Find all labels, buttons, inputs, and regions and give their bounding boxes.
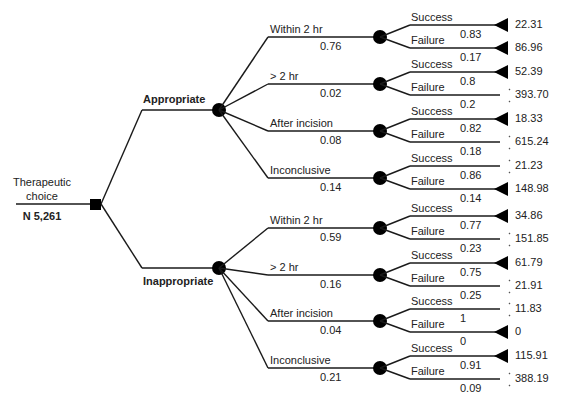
appropriate-timing-2-outcome-failure-value: 615.24 — [515, 135, 549, 147]
inappropriate-timing-2-diagonal — [219, 268, 268, 321]
appropriate-timing-0-prob: 0.76 — [320, 40, 341, 52]
inappropriate-timing-3-outcome-success-terminal-triangle-icon — [494, 349, 508, 363]
inappropriate-timing-3-diagonal — [219, 268, 268, 368]
inappropriate-timing-1-outcome-success-prob: 0.75 — [460, 266, 481, 278]
appropriate-timing-0-label: Within 2 hr — [270, 23, 323, 35]
appropriate-timing-2-outcome-success-prob: 0.82 — [460, 122, 481, 134]
branch-label-inappropriate: Inappropriate — [143, 275, 213, 287]
inappropriate-timing-2-outcome-failure-label: Failure — [411, 318, 445, 330]
appropriate-diagonal — [101, 110, 142, 204]
inappropriate-timing-1-outcome-success-value: 61.79 — [515, 256, 543, 268]
inappropriate-timing-3-outcome-failure-value: 388.19 — [515, 372, 549, 384]
appropriate-timing-0-outcome-success-value: 22.31 — [515, 18, 543, 30]
appropriate-timing-1-outcome-success-value: 52.39 — [515, 65, 543, 77]
appropriate-timing-1-outcome-success-terminal-triangle-icon — [494, 65, 508, 79]
inappropriate-timing-0-outcome-success-prob: 0.77 — [460, 219, 481, 231]
appropriate-timing-0-outcome-failure-terminal-triangle-icon — [494, 41, 508, 55]
inappropriate-timing-3-outcome-success-diagonal — [380, 356, 410, 368]
inappropriate-timing-0-outcome-failure-prob: 0.23 — [460, 242, 481, 254]
inappropriate-timing-3-outcome-failure-prob: 0.09 — [460, 382, 481, 394]
appropriate-timing-3-outcome-success-terminal-tick-icon — [509, 160, 510, 173]
root-label-line2: choice — [2, 190, 82, 202]
inappropriate-timing-2-outcome-failure-value: 0 — [515, 325, 521, 337]
appropriate-timing-2-prob: 0.08 — [320, 134, 341, 146]
appropriate-timing-3-outcome-success-diagonal — [380, 166, 410, 178]
appropriate-timing-1-outcome-success-diagonal — [380, 72, 410, 84]
inappropriate-timing-1-outcome-failure-prob: 0.25 — [460, 289, 481, 301]
appropriate-timing-3-outcome-failure-label: Failure — [411, 175, 445, 187]
inappropriate-timing-2-outcome-success-value: 11.83 — [515, 302, 542, 314]
inappropriate-timing-1-outcome-failure-label: Failure — [411, 272, 445, 284]
inappropriate-timing-0-diagonal — [219, 228, 268, 268]
inappropriate-timing-1-prob: 0.16 — [320, 278, 341, 290]
inappropriate-timing-2-outcome-failure-prob: 0 — [460, 335, 466, 347]
appropriate-timing-0-outcome-failure-prob: 0.17 — [460, 51, 481, 63]
appropriate-timing-2-outcome-failure-diagonal — [380, 131, 410, 142]
appropriate-timing-1-label: > 2 hr — [270, 70, 298, 82]
appropriate-timing-0-diagonal — [219, 37, 268, 110]
appropriate-timing-0-outcome-failure-value: 86.96 — [515, 41, 543, 53]
appropriate-timing-1-outcome-failure-terminal-tick-icon — [509, 89, 510, 102]
appropriate-timing-0-outcome-success-prob: 0.83 — [460, 28, 481, 40]
inappropriate-timing-0-prob: 0.59 — [320, 231, 341, 243]
appropriate-timing-2-outcome-success-diagonal — [380, 119, 410, 131]
appropriate-timing-3-label: Inconclusive — [270, 164, 331, 176]
appropriate-timing-3-outcome-success-label: Success — [411, 152, 453, 164]
appropriate-timing-1-outcome-failure-diagonal — [380, 84, 410, 95]
appropriate-timing-1-outcome-failure-prob: 0.2 — [460, 98, 475, 110]
appropriate-timing-2-outcome-failure-terminal-tick-icon — [509, 136, 510, 149]
inappropriate-timing-0-outcome-success-value: 34.86 — [515, 209, 543, 221]
inappropriate-timing-3-outcome-success-value: 115.91 — [515, 349, 548, 361]
appropriate-timing-0-outcome-success-label: Success — [411, 11, 453, 23]
appropriate-timing-1-outcome-success-label: Success — [411, 58, 453, 70]
inappropriate-timing-0-outcome-success-terminal-triangle-icon — [494, 209, 508, 223]
inappropriate-timing-3-outcome-success-label: Success — [411, 342, 453, 354]
appropriate-timing-3-outcome-success-prob: 0.86 — [460, 169, 481, 181]
inappropriate-timing-2-outcome-success-label: Success — [411, 295, 453, 307]
root-decision-node — [90, 199, 101, 210]
appropriate-timing-0-outcome-success-diagonal — [380, 25, 410, 37]
inappropriate-timing-1-outcome-failure-diagonal — [380, 275, 410, 286]
appropriate-timing-0-outcome-failure-label: Failure — [411, 34, 445, 46]
inappropriate-timing-0-outcome-success-label: Success — [411, 202, 453, 214]
inappropriate-timing-1-outcome-failure-value: 21.91 — [515, 279, 543, 291]
inappropriate-timing-1-outcome-success-terminal-triangle-icon — [494, 256, 508, 270]
inappropriate-timing-3-outcome-failure-label: Failure — [411, 365, 445, 377]
appropriate-timing-0-outcome-success-terminal-triangle-icon — [494, 18, 508, 32]
inappropriate-timing-3-outcome-failure-terminal-tick-icon — [509, 373, 510, 386]
inappropriate-timing-0-outcome-failure-terminal-tick-icon — [509, 233, 510, 246]
inappropriate-timing-0-label: Within 2 hr — [270, 214, 323, 226]
inappropriate-timing-2-outcome-success-diagonal — [380, 309, 410, 321]
appropriate-timing-2-outcome-failure-prob: 0.18 — [460, 145, 481, 157]
inappropriate-timing-1-outcome-success-diagonal — [380, 263, 410, 275]
inappropriate-timing-1-outcome-success-label: Success — [411, 249, 453, 261]
appropriate-timing-2-label: After incision — [270, 117, 333, 129]
root-label-line1: Therapeutic — [2, 176, 82, 188]
appropriate-timing-3-outcome-failure-diagonal — [380, 178, 410, 189]
inappropriate-timing-2-label: After incision — [270, 307, 333, 319]
inappropriate-timing-2-outcome-success-prob: 1 — [460, 312, 466, 324]
appropriate-timing-3-outcome-failure-prob: 0.14 — [460, 192, 481, 204]
inappropriate-timing-1-outcome-failure-terminal-tick-icon — [509, 280, 510, 293]
inappropriate-timing-2-outcome-success-terminal-tick-icon — [509, 303, 510, 316]
appropriate-timing-2-outcome-failure-label: Failure — [411, 128, 445, 140]
appropriate-timing-1-outcome-failure-value: 393.70 — [515, 88, 549, 100]
inappropriate-timing-3-prob: 0.21 — [320, 371, 341, 383]
inappropriate-timing-1-diagonal — [219, 268, 268, 275]
appropriate-timing-3-prob: 0.14 — [320, 181, 341, 193]
appropriate-timing-1-prob: 0.02 — [320, 87, 341, 99]
appropriate-timing-1-outcome-success-prob: 0.8 — [460, 75, 475, 87]
appropriate-timing-0-outcome-failure-diagonal — [380, 37, 410, 48]
appropriate-timing-3-outcome-success-value: 21.23 — [515, 159, 543, 171]
inappropriate-timing-2-outcome-failure-terminal-triangle-icon — [494, 325, 508, 339]
inappropriate-timing-2-outcome-failure-diagonal — [380, 321, 410, 332]
appropriate-timing-3-outcome-failure-value: 148.98 — [515, 182, 549, 194]
appropriate-timing-2-outcome-success-label: Success — [411, 105, 453, 117]
inappropriate-timing-0-outcome-failure-value: 151.85 — [515, 232, 549, 244]
appropriate-timing-3-outcome-failure-terminal-triangle-icon — [494, 182, 508, 196]
appropriate-timing-2-outcome-success-terminal-triangle-icon — [494, 112, 508, 126]
inappropriate-timing-0-outcome-failure-label: Failure — [411, 225, 445, 237]
inappropriate-timing-3-outcome-success-prob: 0.91 — [460, 359, 481, 371]
inappropriate-timing-3-outcome-failure-diagonal — [380, 368, 410, 379]
inappropriate-timing-0-outcome-failure-diagonal — [380, 228, 410, 239]
